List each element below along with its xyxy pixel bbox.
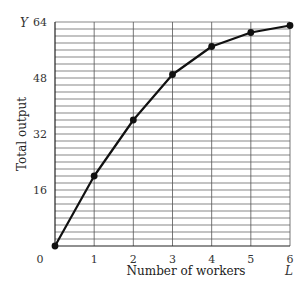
data-point xyxy=(287,22,294,29)
data-point xyxy=(91,173,98,180)
y-tick-label: 64 xyxy=(33,16,47,29)
x-axis-symbol: L xyxy=(284,264,293,278)
y-axis-symbol: Y xyxy=(20,16,29,30)
y-tick-label: 32 xyxy=(33,128,47,141)
x-axis-title: Number of workers xyxy=(127,264,246,278)
y-axis-title: Total output xyxy=(15,97,29,171)
data-point xyxy=(52,243,59,250)
y-tick-label: 16 xyxy=(33,184,47,197)
x-tick-label: 5 xyxy=(247,253,254,266)
x-tick-label: 0 xyxy=(37,253,44,266)
x-tick-label: 1 xyxy=(91,253,98,266)
data-point xyxy=(247,29,254,36)
y-tick-label: 48 xyxy=(33,72,47,85)
grid xyxy=(55,22,290,246)
data-point xyxy=(208,43,215,50)
data-point xyxy=(169,71,176,78)
total-output-chart: 012345616324864 Number of workers L Y To… xyxy=(0,0,307,291)
data-point xyxy=(130,117,137,124)
